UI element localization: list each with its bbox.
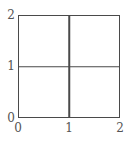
y-axis-tick-label-1: 1 (2, 60, 15, 72)
x-axis-tick-label-2: 2 (113, 122, 127, 134)
y-axis-tick-label-2: 2 (2, 9, 15, 21)
x-axis-tick-label-0: 0 (11, 122, 25, 134)
plot-area (18, 15, 120, 118)
chart-figure: 2 1 0 0 1 2 (0, 0, 132, 141)
gridline-horizontal-y1 (19, 66, 119, 68)
x-axis-tick-label-1: 1 (62, 122, 76, 134)
